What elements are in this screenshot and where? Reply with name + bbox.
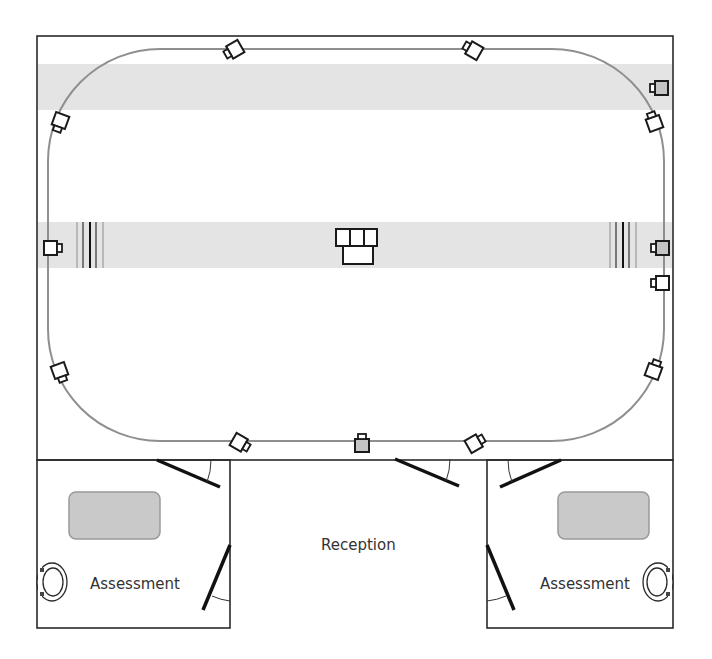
center-obstacle: [336, 229, 377, 264]
assessment-right-label: Assessment: [540, 575, 630, 593]
assessment-room-left: [37, 460, 230, 628]
floor-plan: [0, 0, 712, 659]
door-reception-top: [395, 459, 459, 486]
camera-icon: [651, 241, 669, 255]
gray-band-top: [38, 64, 672, 110]
door-left-side: [203, 545, 230, 610]
camera-icon: [222, 40, 245, 61]
camera-icon: [355, 434, 369, 452]
camera-icon: [651, 276, 669, 290]
assessment-left-label: Assessment: [90, 575, 180, 593]
door-right-top: [500, 460, 561, 487]
camera-icon: [230, 433, 253, 454]
toilet-left: [37, 563, 67, 601]
camera-icon: [461, 39, 484, 60]
assessment-room-right: [487, 460, 673, 628]
camera-icon: [51, 362, 70, 384]
reception-label: Reception: [321, 536, 396, 554]
camera-icon: [50, 112, 69, 134]
camera-icon: [44, 241, 62, 255]
door-left-top: [157, 460, 220, 487]
table-right: [558, 492, 649, 539]
table-left: [69, 492, 160, 539]
camera-icon: [644, 110, 663, 132]
camera-icon: [465, 432, 488, 453]
camera-icon: [645, 358, 664, 380]
toilet-right: [643, 563, 673, 601]
door-right-side: [487, 545, 514, 610]
